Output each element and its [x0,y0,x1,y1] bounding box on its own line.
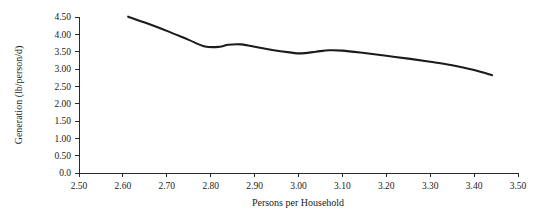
y-axis-tick-labels: 0.00.501.001.502.002.503.003.504.004.50 [54,12,71,178]
x-tick-label: 3.40 [466,181,483,191]
y-tick-label: 4.00 [54,30,71,40]
y-tick-label: 1.00 [54,134,71,144]
x-axis-tick-labels: 2.502.602.702.802.903.003.103.203.303.40… [71,181,527,191]
chart-container: 0.00.501.001.502.002.503.003.504.004.50 … [0,0,548,219]
x-tick-label: 2.50 [71,181,88,191]
x-tick-label: 3.50 [510,181,527,191]
y-axis-ticks [75,17,79,173]
x-tick-label: 3.30 [422,181,439,191]
y-tick-label: 3.00 [54,64,71,74]
y-tick-label: 0.0 [59,168,71,178]
chart-plot-svg: 0.00.501.001.502.002.503.003.504.004.50 … [0,0,548,219]
x-tick-label: 2.60 [115,181,132,191]
y-tick-label: 2.00 [54,99,71,109]
y-axis-title: Generation (lb/person/d) [13,46,25,145]
x-tick-label: 2.90 [246,181,263,191]
x-tick-label: 2.80 [202,181,219,191]
x-tick-label: 3.00 [290,181,307,191]
y-tick-label: 4.50 [54,12,71,22]
y-tick-label: 1.50 [54,116,71,126]
axes-group [79,17,518,173]
axis-lines [79,17,518,173]
y-tick-label: 2.50 [54,82,71,92]
data-series-line [128,17,492,76]
x-axis-title: Persons per Household [252,197,344,208]
x-tick-label: 2.70 [158,181,175,191]
x-tick-label: 3.20 [378,181,395,191]
y-tick-label: 0.50 [54,151,71,161]
y-tick-label: 3.50 [54,47,71,57]
x-tick-label: 3.10 [334,181,351,191]
x-axis-ticks [79,173,518,177]
